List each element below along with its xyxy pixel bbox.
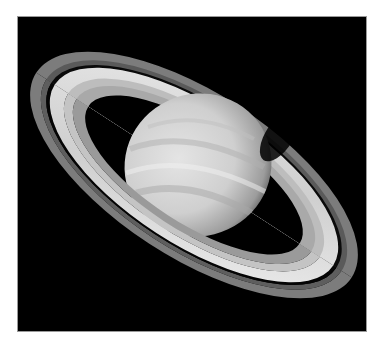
figure-caption: — — — — — — — — — — — — — — — —: [17, 0, 347, 4]
saturn-image: [17, 16, 367, 332]
saturn-illustration: [18, 17, 367, 332]
